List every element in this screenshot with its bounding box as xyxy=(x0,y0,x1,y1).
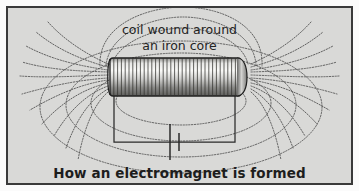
coil-label: coil wound around an iron core xyxy=(8,22,351,54)
coil-label-line-1: coil wound around xyxy=(8,22,351,38)
electromagnet-figure: coil wound around an iron core How an el… xyxy=(0,0,359,191)
solenoid-coil xyxy=(108,58,247,96)
figure-frame: coil wound around an iron core How an el… xyxy=(6,6,353,185)
coil-label-line-2: an iron core xyxy=(8,38,351,54)
figure-caption: How an electromagnet is formed xyxy=(8,165,351,181)
